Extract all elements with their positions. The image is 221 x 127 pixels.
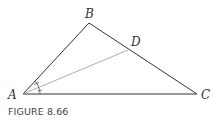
side-AB bbox=[23, 23, 89, 94]
vertex-label-A: A bbox=[7, 88, 17, 102]
side-BC bbox=[89, 23, 197, 94]
figure-caption: FIGURE 8.66 bbox=[8, 106, 68, 117]
vertex-label-C: C bbox=[201, 88, 210, 102]
vertex-label-D: D bbox=[130, 35, 141, 49]
vertex-label-B: B bbox=[84, 7, 94, 21]
angle-tick-2 bbox=[38, 90, 43, 91]
